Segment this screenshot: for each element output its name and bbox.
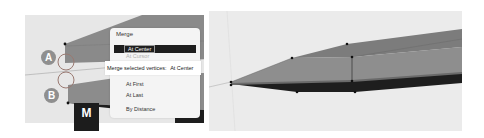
vertex-label-a: A: [41, 50, 56, 65]
mesh-after: [209, 11, 462, 131]
menu-item-at-center[interactable]: At Center: [114, 45, 196, 53]
tooltip-label: Merge selected vertices:: [105, 65, 167, 71]
merge-menu-title: Merge: [116, 31, 133, 37]
menu-item-at-cursor[interactable]: At Cursor: [114, 54, 196, 58]
keyboard-key-m-hint: M: [74, 103, 99, 131]
menu-item-by-distance[interactable]: By Distance: [114, 105, 196, 113]
menu-item-at-last[interactable]: At Last: [114, 91, 196, 99]
merge-tooltip: Merge selected vertices: At Center: [105, 61, 201, 75]
tooltip-value: At Center: [168, 65, 193, 71]
viewport-after-merge: [209, 11, 462, 131]
menu-item-at-first[interactable]: At First: [114, 80, 196, 88]
vertex-label-b: B: [44, 88, 59, 103]
